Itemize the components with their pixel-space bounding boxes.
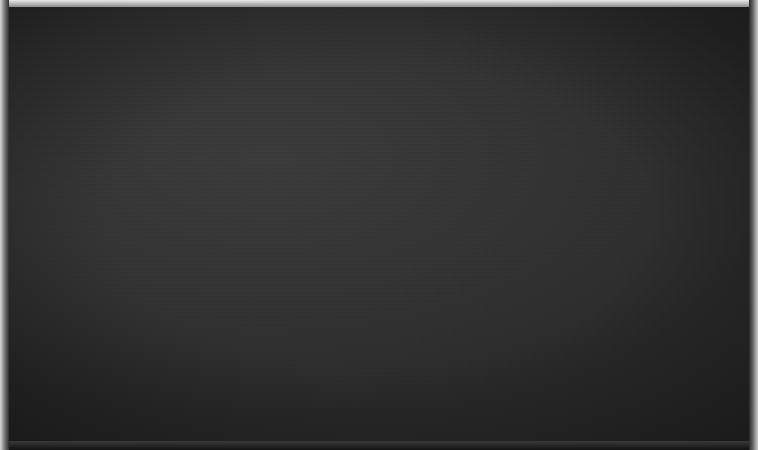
screen-edge-bottom: [0, 441, 758, 450]
slide-canvas: [9, 7, 749, 441]
screen-edge-top: [0, 0, 758, 7]
infographic-slide: 2020 DEVICE OWNERSHIP PERCENTAGE OF INTE…: [0, 0, 758, 450]
